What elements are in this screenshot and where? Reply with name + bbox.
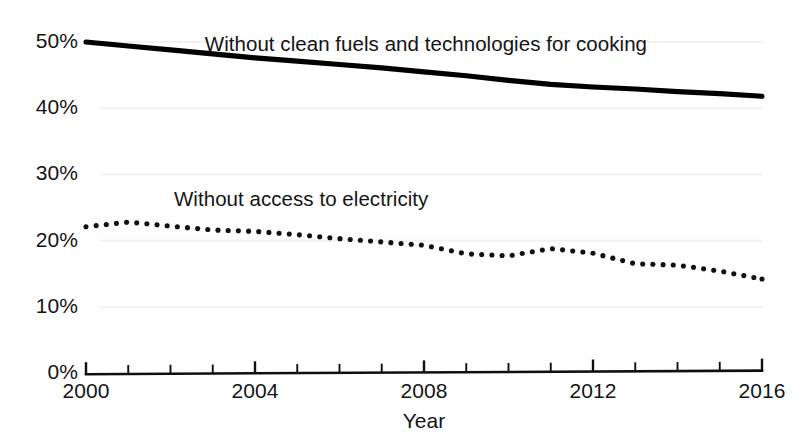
series-dot-electricity bbox=[297, 232, 302, 237]
series-dot-electricity bbox=[277, 231, 282, 236]
series-dot-electricity bbox=[226, 228, 231, 233]
series-dot-electricity bbox=[510, 253, 515, 258]
series-dot-electricity bbox=[307, 233, 312, 238]
series-dot-electricity bbox=[175, 224, 180, 229]
series-dot-electricity bbox=[650, 262, 655, 267]
series-dot-electricity bbox=[550, 246, 555, 251]
y-axis-tick-label: 20% bbox=[6, 228, 78, 252]
series-dot-electricity bbox=[429, 244, 434, 249]
y-axis-tick-label: 10% bbox=[6, 294, 78, 318]
series-dot-electricity bbox=[620, 258, 625, 263]
series-dot-electricity bbox=[185, 225, 190, 230]
series-label-electricity: Without access to electricity bbox=[174, 187, 428, 211]
series-dot-electricity bbox=[661, 262, 666, 267]
y-axis-tick-label: 30% bbox=[6, 161, 78, 185]
series-dot-electricity bbox=[711, 268, 716, 273]
series-dot-electricity bbox=[489, 252, 494, 257]
series-dot-electricity bbox=[701, 266, 706, 271]
series-label-cooking: Without clean fuels and technologies for… bbox=[205, 32, 647, 56]
series-dot-electricity bbox=[671, 262, 676, 267]
series-dot-electricity bbox=[469, 252, 474, 257]
line-chart: 50%40%30%20%10%0% 20002004200820122016 Y… bbox=[0, 0, 809, 447]
y-axis-tick-label: 50% bbox=[6, 29, 78, 53]
x-axis-title: Year bbox=[324, 409, 524, 433]
series-dot-electricity bbox=[205, 227, 210, 232]
series-dot-electricity bbox=[287, 231, 292, 236]
x-axis-tick-label: 2016 bbox=[717, 379, 807, 403]
x-axis-tick-label: 2012 bbox=[548, 379, 638, 403]
series-dot-electricity bbox=[500, 253, 505, 258]
series-dot-electricity bbox=[731, 271, 736, 276]
series-dot-electricity bbox=[83, 224, 88, 229]
series-dot-electricity bbox=[327, 235, 332, 240]
y-axis-tick-label: 40% bbox=[6, 95, 78, 119]
series-dot-electricity bbox=[681, 263, 686, 268]
series-dot-electricity bbox=[246, 229, 251, 234]
x-axis-tick-label: 2008 bbox=[379, 379, 469, 403]
series-dot-electricity bbox=[540, 247, 545, 252]
series-dot-electricity bbox=[165, 223, 170, 228]
series-dot-electricity bbox=[114, 221, 119, 226]
series-dot-electricity bbox=[154, 222, 159, 227]
series-dot-electricity bbox=[368, 239, 373, 244]
series-dot-electricity bbox=[266, 230, 271, 235]
series-dot-electricity bbox=[399, 241, 404, 246]
series-dot-electricity bbox=[317, 234, 322, 239]
series-dot-electricity bbox=[409, 242, 414, 247]
series-dot-electricity bbox=[600, 253, 605, 258]
series-dot-electricity bbox=[378, 239, 383, 244]
series-dot-electricity bbox=[691, 265, 696, 270]
series-dot-electricity bbox=[388, 240, 393, 245]
series-dot-electricity bbox=[751, 275, 756, 280]
series-dot-electricity bbox=[449, 248, 454, 253]
series-dot-electricity bbox=[520, 251, 525, 256]
series-dot-electricity bbox=[590, 251, 595, 256]
series-dot-electricity bbox=[459, 250, 464, 255]
series-dot-electricity bbox=[759, 276, 764, 281]
series-dot-electricity bbox=[348, 237, 353, 242]
series-dot-electricity bbox=[124, 220, 129, 225]
series-dot-electricity bbox=[419, 242, 424, 247]
series-dot-electricity bbox=[337, 236, 342, 241]
series-dot-electricity bbox=[560, 247, 565, 252]
series-dot-electricity bbox=[439, 246, 444, 251]
series-dot-electricity bbox=[195, 226, 200, 231]
series-dot-electricity bbox=[570, 248, 575, 253]
series-dot-electricity bbox=[721, 269, 726, 274]
x-axis-tick-label: 2000 bbox=[41, 379, 131, 403]
series-dot-electricity bbox=[236, 228, 241, 233]
series-dot-electricity bbox=[741, 273, 746, 278]
series-dot-electricity bbox=[104, 222, 109, 227]
series-dot-electricity bbox=[630, 261, 635, 266]
series-dot-electricity bbox=[144, 221, 149, 226]
series-dot-electricity bbox=[479, 252, 484, 257]
series-dot-electricity bbox=[134, 220, 139, 225]
series-dot-electricity bbox=[580, 250, 585, 255]
series-dot-electricity bbox=[640, 261, 645, 266]
x-axis-tick-label: 2004 bbox=[210, 379, 300, 403]
series-group bbox=[83, 42, 764, 282]
series-dot-electricity bbox=[94, 223, 99, 228]
series-dot-electricity bbox=[215, 228, 220, 233]
series-dot-electricity bbox=[256, 229, 261, 234]
series-dot-electricity bbox=[358, 238, 363, 243]
series-dot-electricity bbox=[530, 249, 535, 254]
series-dot-electricity bbox=[610, 256, 615, 261]
